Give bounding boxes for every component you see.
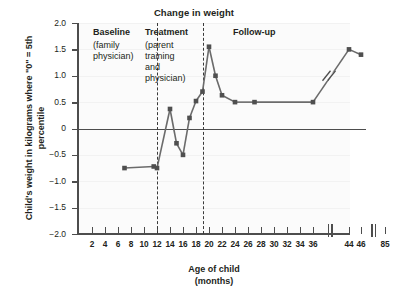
data-series-line: [78, 23, 350, 234]
data-point-marker: [207, 44, 212, 49]
y-tick-label: 0: [26, 123, 66, 133]
data-point-marker: [213, 73, 218, 78]
series-segment: [170, 109, 177, 143]
x-tick-label: 85: [373, 239, 394, 249]
axis-break-mark: [371, 224, 373, 237]
chart-title: Change in weight: [0, 7, 388, 18]
y-tick-label: 1.0: [26, 70, 66, 80]
series-segment: [190, 101, 197, 118]
x-axis-title: Age of child (months): [78, 263, 350, 287]
data-point-marker: [347, 47, 352, 52]
data-point-marker: [233, 100, 238, 105]
x-axis-title-main: Age of child: [188, 264, 240, 274]
data-point-marker: [200, 89, 205, 94]
data-point-marker: [187, 116, 192, 121]
y-tick-label: 2.0: [26, 18, 66, 28]
y-tick-label: −1.0: [26, 176, 66, 186]
x-tick: [361, 227, 362, 234]
x-tick-label: 36: [301, 239, 325, 249]
series-segment: [203, 47, 210, 92]
y-tick-label: −0.5: [26, 149, 66, 159]
data-point-marker: [174, 141, 179, 146]
x-tick-label: 46: [349, 239, 373, 249]
data-point-marker: [359, 52, 364, 57]
y-tick-label: 0.5: [26, 97, 66, 107]
y-tick-label: −2.0: [26, 229, 66, 239]
data-point-marker: [155, 166, 160, 171]
series-segment: [209, 47, 216, 76]
x-tick: [385, 227, 386, 234]
series-segment: [216, 76, 223, 96]
data-point-marker: [220, 93, 225, 98]
data-point-marker: [122, 166, 127, 171]
data-point-marker: [311, 100, 316, 105]
series-segment: [183, 118, 190, 155]
data-point-marker: [252, 100, 257, 105]
data-point-marker: [168, 107, 173, 112]
axis-break-mark: [375, 224, 377, 237]
x-axis-title-unit: (months): [195, 276, 234, 286]
series-segment: [125, 166, 154, 168]
y-tick: [72, 234, 78, 235]
data-point-marker: [194, 99, 199, 104]
series-segment: [157, 109, 170, 168]
data-point-marker: [181, 153, 186, 158]
y-tick-label: −1.5: [26, 202, 66, 212]
y-tick-label: 1.5: [26, 44, 66, 54]
